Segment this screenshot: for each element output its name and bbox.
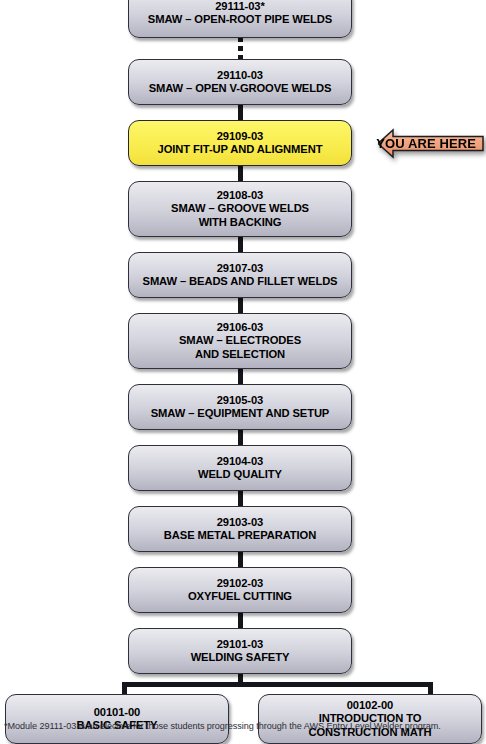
you-are-here-callout: YOU ARE HERE [378,128,484,159]
course-title-line: AND SELECTION [195,348,285,361]
course-code: 29105-03 [217,394,263,407]
connector-dotted-29111-29110 [238,37,243,59]
footnote-text: *Module 29111-03 is an elective for thos… [4,721,486,732]
course-code: 29106-03 [217,321,263,334]
connector-29105-29104 [238,429,243,445]
course-title-line: WELD QUALITY [198,468,282,481]
left-arrow-icon [378,128,484,159]
course-node-29109-03-current[interactable]: 29109-03 JOINT FIT-UP AND ALIGNMENT [128,120,352,166]
course-title-line: SMAW – GROOVE WELDS [171,202,309,215]
connector-branch-right-drop [428,682,433,694]
course-node-00102-00[interactable]: 00102-00 INTRODUCTION TO CONSTRUCTION MA… [258,694,482,744]
connector-29104-29103 [238,490,243,506]
course-code: 29111-03* [215,0,265,13]
course-node-00101-00[interactable]: 00101-00 BASIC SAFETY [5,694,229,744]
course-node-29101-03[interactable]: 29101-03 WELDING SAFETY [128,628,352,674]
course-title-line: SMAW – OPEN V-GROOVE WELDS [149,82,332,95]
course-title-line: BASE METAL PREPARATION [164,529,316,542]
course-code: 29110-03 [217,69,263,82]
course-node-29105-03[interactable]: 29105-03 SMAW – EQUIPMENT AND SETUP [128,384,352,430]
course-node-29108-03[interactable]: 29108-03 SMAW – GROOVE WELDS WITH BACKIN… [128,181,352,237]
connector-29103-29102 [238,551,243,567]
connector-29107-29106 [238,297,243,313]
course-title-line: OXYFUEL CUTTING [188,590,292,603]
course-code: 29104-03 [217,455,263,468]
course-node-29106-03[interactable]: 29106-03 SMAW – ELECTRODES AND SELECTION [128,313,352,369]
course-title-line: SMAW – BEADS AND FILLET WELDS [143,275,338,288]
connector-29102-29101 [238,612,243,628]
connector-branch-bar [122,682,433,687]
course-title-line: SMAW – ELECTRODES [179,334,301,347]
course-title-line: SMAW – EQUIPMENT AND SETUP [151,407,330,420]
course-node-29111-03[interactable]: 29111-03* SMAW – OPEN-ROOT PIPE WELDS [128,0,352,38]
course-code: 29101-03 [217,638,263,651]
course-title-line: JOINT FIT-UP AND ALIGNMENT [158,143,323,156]
connector-29109-29108 [238,165,243,181]
course-node-29107-03[interactable]: 29107-03 SMAW – BEADS AND FILLET WELDS [128,252,352,298]
connector-branch-left-drop [122,682,127,694]
course-title-line: WITH BACKING [199,216,282,229]
course-node-29102-03[interactable]: 29102-03 OXYFUEL CUTTING [128,567,352,613]
course-code: 00102-00 [347,699,393,712]
course-node-29103-03[interactable]: 29103-03 BASE METAL PREPARATION [128,506,352,552]
course-code: 29107-03 [217,262,263,275]
course-code: 29103-03 [217,516,263,529]
course-node-29110-03[interactable]: 29110-03 SMAW – OPEN V-GROOVE WELDS [128,59,352,105]
course-code: 29109-03 [217,130,263,143]
connector-29108-29107 [238,236,243,252]
course-title-line: SMAW – OPEN-ROOT PIPE WELDS [148,13,332,26]
course-title-line: WELDING SAFETY [191,651,290,664]
course-code: 29102-03 [217,577,263,590]
course-node-29104-03[interactable]: 29104-03 WELD QUALITY [128,445,352,491]
connector-29106-29105 [238,368,243,384]
course-code: 29108-03 [217,189,263,202]
connector-29110-29109 [238,104,243,120]
course-code: 00101-00 [94,706,140,719]
